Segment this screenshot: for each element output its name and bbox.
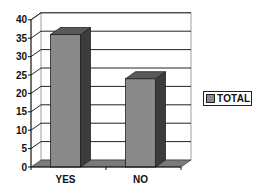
gridline-diagonal	[31, 31, 41, 38]
y-tick-label: 10	[16, 125, 28, 136]
legend-label-total: TOTAL	[217, 93, 250, 104]
y-tick-label: 35	[16, 33, 28, 44]
y-tick-label: 40	[16, 14, 28, 25]
gridline-diagonal	[31, 123, 41, 130]
y-axis: 0510152025303540	[16, 14, 31, 172]
gridline-diagonal	[31, 68, 41, 75]
bar-side	[156, 72, 166, 167]
bar-side	[81, 28, 91, 167]
bar-front	[51, 35, 81, 167]
legend-swatch-icon	[206, 94, 215, 103]
y-tick-label: 30	[16, 51, 28, 62]
y-tick-label: 25	[16, 70, 28, 81]
y-tick-label: 20	[16, 88, 28, 99]
gridline-diagonal	[31, 13, 41, 20]
y-tick-label: 0	[21, 162, 27, 173]
bar-yes	[51, 28, 91, 167]
gridline-diagonal	[31, 105, 41, 112]
x-axis: YESNO	[31, 167, 181, 185]
x-category-label: YES	[55, 174, 75, 185]
legend: TOTAL	[203, 91, 252, 106]
bar-front	[126, 79, 156, 167]
gridline-diagonal	[31, 86, 41, 93]
y-tick-label: 15	[16, 106, 28, 117]
gridline-diagonal	[31, 50, 41, 57]
x-category-label: NO	[133, 174, 148, 185]
gridline-diagonal	[31, 142, 41, 149]
bar-no	[126, 72, 166, 167]
y-tick-label: 5	[21, 143, 27, 154]
